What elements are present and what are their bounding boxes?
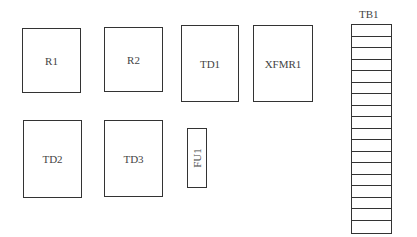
- component-r2: R2: [104, 27, 163, 92]
- terminal-block-row: [352, 37, 391, 49]
- component-fu1: FU1: [187, 128, 207, 188]
- terminal-block-row: [352, 106, 391, 118]
- component-label: TD2: [42, 153, 62, 165]
- component-r1: R1: [22, 28, 81, 93]
- terminal-block-row: [352, 83, 391, 95]
- terminal-block-row: [352, 209, 391, 221]
- terminal-block-row: [352, 175, 391, 187]
- component-label: R2: [127, 54, 140, 66]
- component-td2: TD2: [23, 120, 82, 198]
- terminal-block-row: [352, 221, 391, 233]
- terminal-block-row: [352, 117, 391, 129]
- terminal-block-row: [352, 94, 391, 106]
- terminal-block-row: [352, 60, 391, 72]
- terminal-block-row: [352, 152, 391, 164]
- terminal-block-row: [352, 186, 391, 198]
- component-label: TD1: [200, 58, 220, 70]
- component-td3: TD3: [104, 120, 163, 197]
- component-label: FU1: [191, 148, 203, 168]
- component-xfmr1: XFMR1: [253, 25, 313, 102]
- terminal-block-row: [352, 140, 391, 152]
- terminal-block-row: [352, 25, 391, 37]
- component-label: TD3: [123, 153, 143, 165]
- terminal-block-label: TB1: [359, 8, 379, 20]
- terminal-block-row: [352, 48, 391, 60]
- component-label: R1: [45, 55, 58, 67]
- terminal-block-row: [352, 129, 391, 141]
- terminal-block-row: [352, 163, 391, 175]
- component-label: XFMR1: [265, 58, 302, 70]
- terminal-block-row: [352, 71, 391, 83]
- component-td1: TD1: [181, 25, 239, 102]
- terminal-block-tb1: [351, 24, 392, 234]
- terminal-block-row: [352, 198, 391, 210]
